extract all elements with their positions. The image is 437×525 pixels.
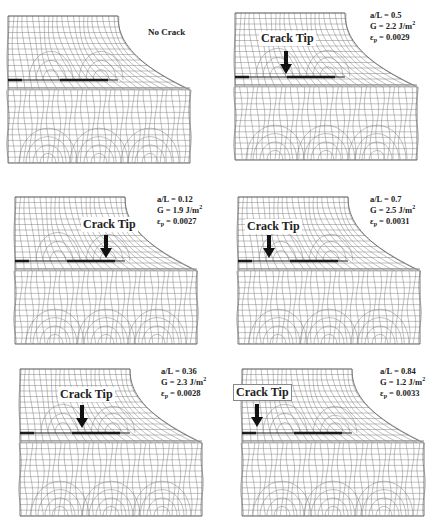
plastic-strain: εp = 0.0029: [370, 32, 415, 43]
plastic-strain: εp = 0.0028: [161, 388, 206, 399]
crack-tip-arrow-icon: [251, 404, 263, 430]
mesh-panel-al-0-36: Crack Tip a/L = 0.36 G = 2.3 J/m2 εp = 0…: [0, 345, 220, 525]
fem-mesh: [0, 0, 220, 175]
crack-tip-arrow-icon: [100, 235, 112, 261]
mesh-panel-no-crack: No Crack: [0, 0, 220, 175]
simulation-parameters: a/L = 0.36 G = 2.3 J/m2 εp = 0.0028: [161, 366, 206, 399]
crack-length-ratio: a/L = 0.5: [370, 10, 415, 21]
crack-tip-arrow-icon: [263, 235, 275, 261]
crack-length-ratio: a/L = 0.12: [157, 194, 202, 205]
crack-length-ratio: a/L = 0.7: [370, 194, 415, 205]
simulation-parameters: a/L = 0.7 G = 2.5 J/m2 εp = 0.0031: [370, 194, 415, 227]
crack-length-ratio: a/L = 0.36: [161, 366, 206, 377]
mesh-panel-al-0-5: Crack Tip a/L = 0.5 G = 2.2 J/m2 εp = 0.…: [220, 0, 437, 175]
plastic-strain: εp = 0.0033: [380, 388, 425, 399]
energy-release-rate: G = 2.3 J/m2: [161, 377, 206, 388]
simulation-parameters: a/L = 0.5 G = 2.2 J/m2 εp = 0.0029: [370, 10, 415, 43]
crack-tip-label: Crack Tip: [259, 31, 316, 46]
crack-tip-arrow-icon: [76, 405, 88, 431]
energy-release-rate: G = 1.9 J/m2: [157, 205, 202, 216]
simulation-parameters: a/L = 0.84 G = 1.2 J/m2 εp = 0.0033: [380, 366, 425, 399]
mesh-panel-al-0-84: Crack Tip a/L = 0.84 G = 1.2 J/m2 εp = 0…: [220, 345, 437, 525]
crack-tip-label: Crack Tip: [245, 219, 302, 234]
energy-release-rate: G = 1.2 J/m2: [380, 377, 425, 388]
crack-tip-label: Crack Tip: [81, 217, 138, 232]
crack-tip-label: Crack Tip: [58, 387, 115, 402]
crack-tip-arrow-icon: [280, 51, 292, 77]
crack-tip-label: Crack Tip: [233, 384, 292, 401]
crack-length-ratio: a/L = 0.84: [380, 366, 425, 377]
simulation-parameters: a/L = 0.12 G = 1.9 J/m2 εp = 0.0027: [157, 194, 202, 227]
energy-release-rate: G = 2.2 J/m2: [370, 21, 415, 32]
no-crack-label: No Crack: [148, 27, 185, 37]
mesh-panel-al-0-12: Crack Tip a/L = 0.12 G = 1.9 J/m2 εp = 0…: [0, 175, 220, 350]
energy-release-rate: G = 2.5 J/m2: [370, 205, 415, 216]
mesh-panel-al-0-7: Crack Tip a/L = 0.7 G = 2.5 J/m2 εp = 0.…: [220, 175, 437, 350]
plastic-strain: εp = 0.0027: [157, 216, 202, 227]
plastic-strain: εp = 0.0031: [370, 216, 415, 227]
